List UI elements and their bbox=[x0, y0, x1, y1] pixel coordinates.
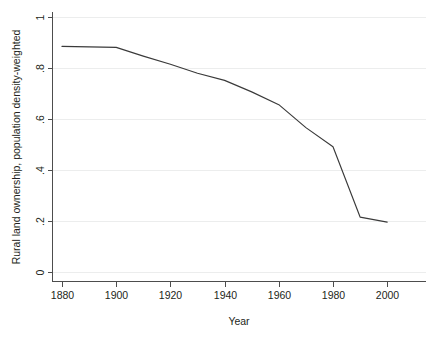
y-axis-title: Rural land ownership, population density… bbox=[10, 30, 22, 265]
y-tick-label: .4 bbox=[34, 166, 46, 175]
y-tick-label: .2 bbox=[34, 217, 46, 226]
x-tick-label: 1900 bbox=[105, 289, 129, 301]
x-tick-label: 1980 bbox=[322, 289, 346, 301]
x-tick-label: 1960 bbox=[268, 289, 292, 301]
y-tick-label: .8 bbox=[34, 64, 46, 73]
y-tick-label: 1 bbox=[34, 14, 46, 20]
x-tick-label: 1940 bbox=[214, 289, 238, 301]
line-chart: 0.2.4.6.81 1880190019201940196019802000 … bbox=[0, 0, 438, 337]
y-tick-label: .6 bbox=[34, 115, 46, 124]
y-tick-label: 0 bbox=[34, 269, 46, 275]
x-tick-label: 1920 bbox=[159, 289, 183, 301]
x-tick-label: 1880 bbox=[51, 289, 75, 301]
chart-background bbox=[0, 0, 438, 337]
x-axis-title: Year bbox=[228, 315, 250, 327]
x-tick-label: 2000 bbox=[376, 289, 400, 301]
chart-figure: 0.2.4.6.81 1880190019201940196019802000 … bbox=[0, 0, 438, 337]
